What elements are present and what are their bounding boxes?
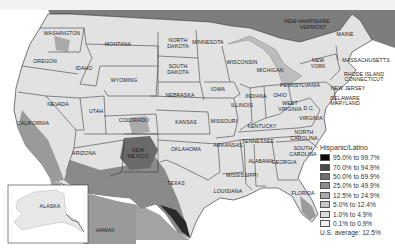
legend-label: 95.0% to 99.7% xyxy=(333,154,380,161)
state-label: OHIO xyxy=(273,92,287,98)
legend-item: 70.0% to 94.9% xyxy=(320,162,395,171)
legend-item: 12.5% to 24.9% xyxy=(320,191,395,200)
legend-label: 1.0% to 4.9% xyxy=(333,211,372,218)
state-label: OREGON xyxy=(33,58,57,64)
state-label: MINNESOTA xyxy=(192,39,224,45)
state-label: MISSISSIPPI xyxy=(226,172,258,178)
state-label: CAROLINA xyxy=(289,151,317,157)
legend-swatch xyxy=(320,164,330,171)
state-label: DAKOTA xyxy=(167,69,189,75)
legend-swatch xyxy=(320,220,330,227)
state-label: D.C. xyxy=(304,105,315,111)
state-label: MONTANA xyxy=(105,41,132,47)
state-label: OKLAHOMA xyxy=(171,146,202,152)
state-label: COLORADO xyxy=(119,117,150,123)
state-label: FLORIDA xyxy=(291,190,315,196)
state-label: MEXICO xyxy=(127,153,148,159)
legend-swatch xyxy=(320,192,330,199)
top-band xyxy=(0,0,395,10)
state-label: INDIANA xyxy=(245,93,267,99)
legend-item: 25.0% to 49.9% xyxy=(320,181,395,190)
state-label: YORK xyxy=(310,63,326,69)
legend: Hispanic/Latino 95.0% to 99.7%70.0% to 9… xyxy=(320,144,395,236)
state-label: MICHIGAN xyxy=(257,67,284,73)
legend-label: 25.0% to 49.9% xyxy=(333,182,380,189)
state-label: ILLINOIS xyxy=(231,102,254,108)
state-label: CONNECTICUT xyxy=(345,76,385,82)
state-label: UTAH xyxy=(89,108,103,114)
state-label: MASSACHUSETTS xyxy=(342,57,390,63)
state-label: ALABAMA xyxy=(248,158,274,164)
state-label: TEXAS xyxy=(167,180,185,186)
state-label: VERMONT xyxy=(300,24,327,30)
state-label: CALIFORNIA xyxy=(17,120,50,126)
state-label: KENTUCKY xyxy=(247,123,276,129)
state-label: ARKANSAS xyxy=(213,142,242,148)
state-label: IOWA xyxy=(211,86,225,92)
legend-item: 50.0% to 69.9% xyxy=(320,172,395,181)
legend-item: 1.0% to 4.9% xyxy=(320,209,395,218)
legend-label: 12.5% to 24.9% xyxy=(333,192,380,199)
state-label: NEW JERSEY xyxy=(331,85,366,91)
legend-label: 5.0% to 12.4% xyxy=(333,201,376,208)
state-label: MARYLAND xyxy=(330,100,360,106)
state-label: HAWAII xyxy=(96,227,115,233)
state-label: IDAHO xyxy=(76,65,93,71)
legend-label: 50.0% to 69.9% xyxy=(333,173,380,180)
us-average-note: U.S. average: 12.5% xyxy=(320,229,395,236)
state-label: MAINE xyxy=(337,31,354,37)
state-label: PENNSYLVANIA xyxy=(280,82,321,88)
state-label: TENNESSEE xyxy=(242,138,275,144)
legend-swatch xyxy=(320,182,330,189)
state-label: MISSOURI xyxy=(211,118,237,124)
state-label: WISCONSIN xyxy=(227,59,258,65)
legend-title: Hispanic/Latino xyxy=(320,144,395,151)
state-label: CAROLINA xyxy=(290,135,318,141)
state-label: ALASKA xyxy=(40,203,61,209)
legend-swatch xyxy=(320,201,330,208)
legend-item: 5.0% to 12.4% xyxy=(320,200,395,209)
legend-swatch xyxy=(320,154,330,161)
legend-swatch xyxy=(320,211,330,218)
state-label: GEORGIA xyxy=(272,159,297,165)
state-label: VIRGINIA xyxy=(299,115,323,121)
legend-label: 70.0% to 94.9% xyxy=(333,164,380,171)
legend-item: 0.1% to 0.9% xyxy=(320,219,395,228)
state-label: KANSAS xyxy=(175,119,197,125)
state-label: WYOMING xyxy=(111,77,138,83)
legend-swatch xyxy=(320,173,330,180)
state-label: NEVADA xyxy=(47,101,69,107)
state-label: ARIZONA xyxy=(72,150,96,156)
state-label: DAKOTA xyxy=(167,43,189,49)
state-label: LOUISIANA xyxy=(214,188,243,194)
legend-item: 95.0% to 99.7% xyxy=(320,153,395,162)
state-label: WASHINGTON xyxy=(44,30,81,36)
state-label: VIRGINIA xyxy=(278,106,302,112)
state-label: NEBRASKA xyxy=(165,92,194,98)
legend-label: 0.1% to 0.9% xyxy=(333,220,372,227)
